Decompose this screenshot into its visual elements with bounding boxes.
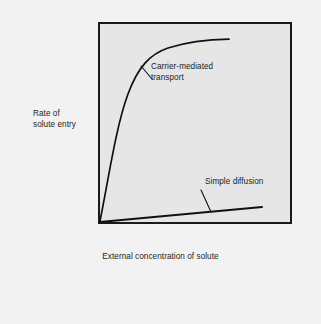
simple-diffusion-label: Simple diffusion: [205, 177, 263, 188]
diffusion-label-leader-line: [201, 190, 211, 212]
x-axis-label: External concentration of solute: [0, 252, 321, 263]
y-axis-label: Rate of solute entry: [33, 109, 76, 130]
carrier-mediated-transport-label: Carrier-mediated transport: [151, 62, 213, 83]
figure-canvas: Rate of solute entry External concentrat…: [0, 0, 321, 324]
simple-diffusion-line: [100, 207, 262, 222]
plot-curves: [98, 22, 292, 224]
